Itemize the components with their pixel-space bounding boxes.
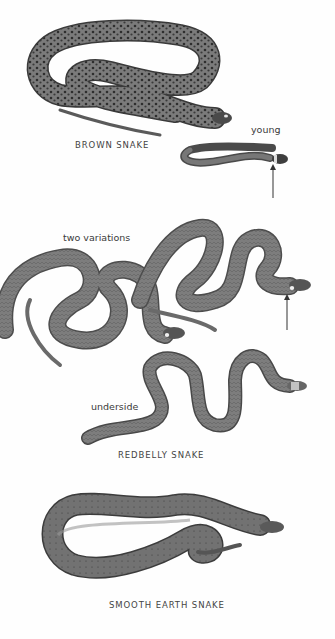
smooth-earth-snake-caption: SMOOTH EARTH SNAKE (109, 600, 225, 610)
redbelly-snake-caption: REDBELLY SNAKE (118, 450, 204, 460)
two-variations-annotation: two variations (63, 232, 130, 243)
redbelly-snake-underside (88, 356, 307, 438)
underside-annotation: underside (91, 401, 138, 412)
redbelly-snake-variations (4, 228, 311, 365)
brown-snake-caption: BROWN SNAKE (75, 140, 149, 150)
field-guide-plate: BROWN SNAKE young two variations undersi… (0, 0, 335, 639)
smooth-earth-snake (53, 504, 285, 568)
brown-snake-head (212, 112, 232, 124)
snake-illustrations (0, 0, 335, 639)
young-annotation: young (251, 124, 281, 135)
brown-snake-young (184, 146, 288, 198)
brown-snake-adult (38, 31, 232, 135)
